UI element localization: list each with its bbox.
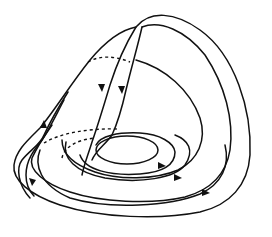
descending-left-curve: [82, 27, 136, 175]
outer-dome-curve: [14, 15, 250, 216]
hidden-back-upper-curve: [88, 57, 130, 62]
arrow-right-middle-icon: [174, 174, 182, 181]
third-spiral-curve: [65, 135, 189, 180]
arrow-down-left-icon: [98, 84, 105, 92]
phase-portrait-diagram: [0, 0, 272, 237]
arrow-fold-down-icon: [29, 178, 36, 186]
arrow-down-right-icon: [118, 86, 125, 94]
inner-ellipse-curve: [96, 136, 158, 164]
fourth-spiral-curve: [80, 133, 175, 175]
diagram-svg: [0, 0, 272, 237]
